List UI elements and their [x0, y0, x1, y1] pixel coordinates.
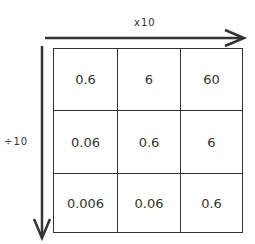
- grid-cell-r1c3: 60: [181, 49, 242, 111]
- grid-cell-r1c1: 0.6: [54, 49, 118, 111]
- grid-cell-r3c2: 0.06: [118, 174, 181, 232]
- grid-cell-r2c1: 0.06: [54, 111, 118, 174]
- grid-cell-r3c1: 0.006: [54, 174, 118, 232]
- grid-cell-r3c3: 0.6: [181, 174, 242, 232]
- grid-cell-r2c2: 0.6: [118, 111, 181, 174]
- place-value-grid: 0.6 6 60 0.06 0.6 6 0.006 0.06 0.6: [53, 48, 243, 233]
- vertical-arrow-icon: [34, 46, 50, 238]
- grid-cell-r1c2: 6: [118, 49, 181, 111]
- multiply-by-ten-label: x10: [134, 17, 156, 28]
- horizontal-arrow-icon: [45, 30, 244, 46]
- grid-cell-r2c3: 6: [181, 111, 242, 174]
- divide-by-ten-label: ÷10: [4, 136, 28, 147]
